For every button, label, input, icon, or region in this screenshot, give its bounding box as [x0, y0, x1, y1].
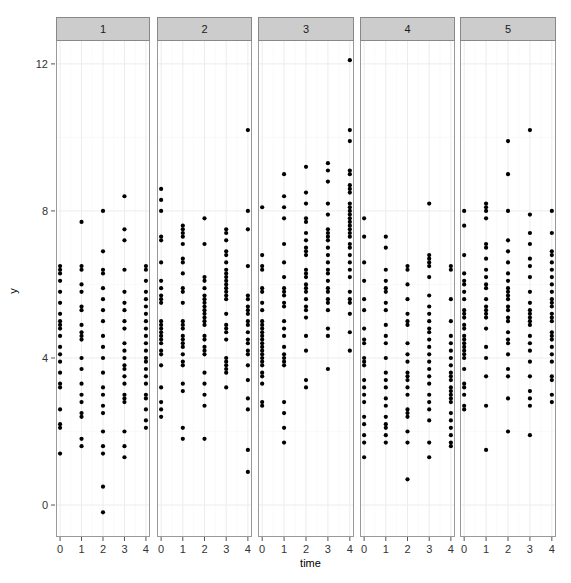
- data-point: [550, 301, 554, 305]
- data-point: [462, 326, 466, 330]
- data-point: [282, 426, 286, 430]
- data-point: [181, 224, 185, 228]
- data-point: [122, 349, 126, 353]
- data-point: [246, 407, 250, 411]
- data-point: [384, 433, 388, 437]
- data-point: [181, 363, 185, 367]
- data-point: [326, 326, 330, 330]
- data-point: [449, 444, 453, 448]
- data-point: [58, 326, 62, 330]
- data-point: [144, 407, 148, 411]
- data-point: [159, 238, 163, 242]
- data-point: [326, 286, 330, 290]
- data-point: [550, 297, 554, 301]
- data-point: [384, 422, 388, 426]
- data-point: [484, 326, 488, 330]
- data-point: [304, 275, 308, 279]
- x-tick-label: 3: [426, 543, 432, 555]
- data-point: [260, 404, 264, 408]
- data-point: [144, 382, 148, 386]
- data-point: [79, 367, 83, 371]
- data-point: [79, 268, 83, 272]
- data-point: [260, 290, 264, 294]
- data-point: [282, 400, 286, 404]
- data-point: [144, 312, 148, 316]
- y-tick-label: 4: [42, 352, 48, 364]
- data-point: [159, 286, 163, 290]
- data-point: [550, 282, 554, 286]
- data-point: [260, 319, 264, 323]
- data-point: [101, 429, 105, 433]
- data-point: [348, 297, 352, 301]
- data-point: [550, 304, 554, 308]
- data-point: [202, 393, 206, 397]
- data-point: [181, 235, 185, 239]
- data-point: [384, 341, 388, 345]
- data-point: [79, 411, 83, 415]
- data-point: [550, 209, 554, 213]
- data-point: [405, 407, 409, 411]
- data-point: [528, 433, 532, 437]
- data-point: [159, 349, 163, 353]
- data-point: [528, 349, 532, 353]
- data-point: [159, 187, 163, 191]
- data-point: [506, 279, 510, 283]
- data-point: [79, 264, 83, 268]
- data-point: [101, 356, 105, 360]
- data-point: [58, 319, 62, 323]
- data-point: [122, 301, 126, 305]
- data-point: [260, 326, 264, 330]
- data-point: [181, 271, 185, 275]
- data-point: [506, 352, 510, 356]
- data-point: [362, 455, 366, 459]
- data-point: [462, 224, 466, 228]
- data-point: [326, 235, 330, 239]
- data-point: [122, 290, 126, 294]
- data-point: [282, 172, 286, 176]
- data-point: [384, 378, 388, 382]
- data-point: [260, 205, 264, 209]
- data-point: [449, 334, 453, 338]
- data-point: [362, 378, 366, 382]
- data-point: [246, 378, 250, 382]
- data-point: [449, 440, 453, 444]
- data-point: [224, 297, 228, 301]
- data-point: [260, 330, 264, 334]
- data-point: [246, 341, 250, 345]
- data-point: [224, 293, 228, 297]
- data-point: [101, 393, 105, 397]
- data-point: [304, 231, 308, 235]
- data-point: [224, 290, 228, 294]
- x-tick-label: 3: [121, 543, 127, 555]
- data-point: [181, 319, 185, 323]
- data-point: [348, 220, 352, 224]
- data-point: [348, 172, 352, 176]
- data-point: [202, 304, 206, 308]
- data-point: [462, 308, 466, 312]
- data-point: [246, 448, 250, 452]
- data-point: [449, 341, 453, 345]
- data-point: [202, 301, 206, 305]
- data-point: [260, 349, 264, 353]
- data-point: [122, 382, 126, 386]
- data-point: [449, 385, 453, 389]
- data-point: [427, 257, 431, 261]
- data-point: [58, 426, 62, 430]
- data-point: [159, 337, 163, 341]
- data-point: [304, 349, 308, 353]
- data-point: [506, 330, 510, 334]
- data-point: [304, 297, 308, 301]
- data-point: [362, 422, 366, 426]
- data-point: [282, 301, 286, 305]
- data-point: [506, 290, 510, 294]
- data-point: [79, 334, 83, 338]
- data-point: [427, 330, 431, 334]
- data-point: [462, 337, 466, 341]
- data-point: [427, 264, 431, 268]
- data-point: [122, 363, 126, 367]
- data-point: [159, 334, 163, 338]
- data-point: [362, 433, 366, 437]
- data-point: [101, 308, 105, 312]
- data-point: [181, 341, 185, 345]
- data-point: [506, 293, 510, 297]
